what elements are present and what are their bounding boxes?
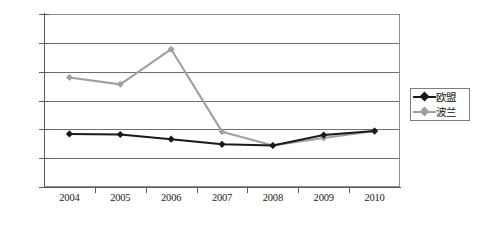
legend-label-eu: 欧盟 (436, 92, 456, 103)
legend-item-poland[interactable]: 波兰 (413, 105, 456, 119)
data-point-marker (218, 141, 225, 148)
legend-item-eu[interactable]: 欧盟 (413, 90, 456, 104)
data-point-marker (371, 127, 378, 134)
legend-swatch-poland-icon (413, 106, 436, 118)
data-point-marker (117, 131, 124, 138)
line-chart: 30.0%25.0%20.0%15.0%10.0%5.0%0.0% 200420… (0, 0, 477, 229)
data-point-marker (168, 136, 175, 143)
data-point-marker (66, 74, 73, 81)
data-point-marker (269, 142, 276, 149)
data-point-marker (66, 130, 73, 137)
series-layer (0, 0, 477, 229)
legend-swatch-eu-icon (413, 91, 436, 103)
legend: 欧盟 波兰 (410, 88, 470, 121)
legend-label-poland: 波兰 (436, 107, 456, 118)
